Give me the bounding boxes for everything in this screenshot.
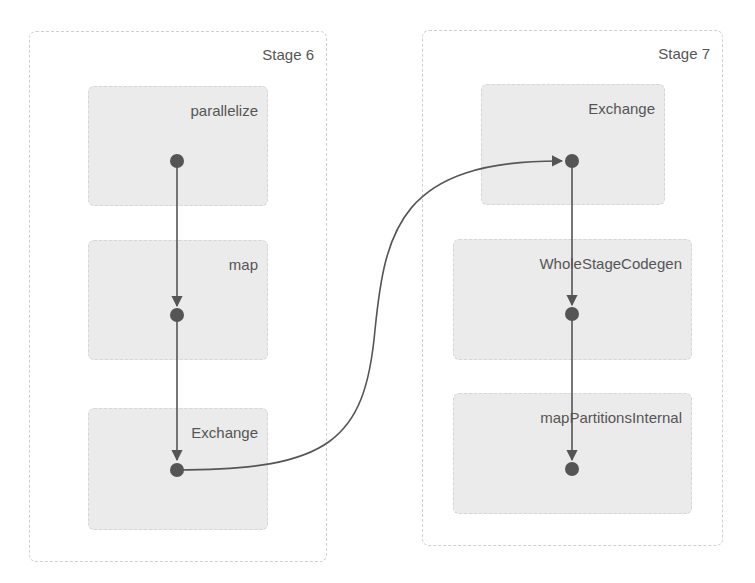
stage-7-label: Stage 7: [658, 45, 710, 62]
node-exchange-stage-6[interactable]: Exchange: [88, 408, 268, 530]
node-mappartitionsinternal[interactable]: mapPartitionsInternal: [453, 393, 692, 514]
node-parallelize[interactable]: parallelize: [88, 86, 268, 206]
node-wholestagecodegen[interactable]: WholeStageCodegen: [453, 239, 692, 360]
node-mappartitionsinternal-label: mapPartitionsInternal: [540, 409, 682, 426]
node-map[interactable]: map: [88, 240, 268, 360]
node-wholestagecodegen-label: WholeStageCodegen: [539, 255, 682, 272]
stage-6-label: Stage 6: [262, 46, 314, 63]
node-exchange-stage-7[interactable]: Exchange: [481, 84, 665, 205]
node-exchange-stage-7-label: Exchange: [588, 100, 655, 117]
node-map-label: map: [229, 256, 258, 273]
node-parallelize-label: parallelize: [190, 102, 258, 119]
node-exchange-stage-6-label: Exchange: [191, 424, 258, 441]
